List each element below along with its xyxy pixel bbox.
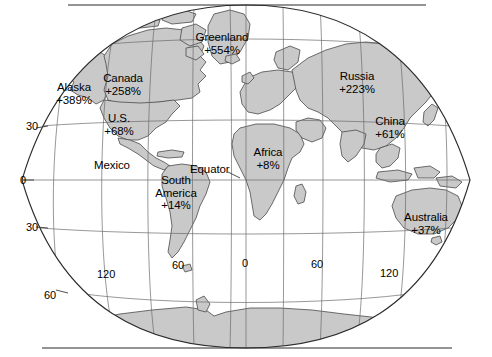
equator-label: Equator [190, 163, 230, 176]
longitude-label-120w-text: 120 [97, 268, 115, 280]
region-name-alaska: Alaska [57, 81, 91, 93]
region-label-greenland: Greenland +554% [196, 31, 249, 56]
region-name-united-states: U.S. [108, 112, 130, 124]
region-label-united-states: U.S. +68% [104, 112, 133, 137]
region-name-south-america-line2: America [155, 187, 196, 200]
latitude-label-0: 0 [20, 174, 26, 186]
latitude-label-30n-text: 30 [26, 120, 38, 132]
land-new-zealand-2 [471, 234, 482, 248]
region-value-australia: +37% [404, 224, 448, 237]
region-label-canada: Canada +258% [103, 72, 143, 97]
region-value-china: +61% [375, 128, 405, 141]
region-name-china: China [375, 115, 405, 127]
land-antarctica [40, 307, 460, 350]
region-label-australia: Australia +37% [404, 211, 448, 236]
longitude-label-60w-text: 60 [172, 259, 184, 271]
world-map-figure: Greenland +554% Canada +258% Alaska +389… [0, 0, 492, 357]
longitude-label-60e: 60 [311, 258, 323, 270]
land-caribbean [157, 150, 184, 158]
longitude-label-0-text: 0 [242, 257, 248, 269]
longitude-label-120e-text: 120 [380, 267, 398, 279]
region-label-mexico: Mexico [94, 159, 130, 172]
region-name-greenland: Greenland [196, 31, 249, 43]
longitude-label-60e-text: 60 [311, 258, 323, 270]
latitude-label-60s-text: 60 [44, 289, 56, 301]
region-name-russia: Russia [340, 70, 375, 82]
latitude-label-60s: 60 [44, 289, 56, 301]
longitude-label-60w: 60 [172, 259, 184, 271]
land-arctic-islands-3 [150, 6, 178, 13]
region-value-south-america: +14% [155, 199, 196, 212]
region-value-united-states: +68% [104, 125, 133, 138]
region-label-alaska: Alaska +389% [56, 81, 92, 106]
region-label-south-america: South America +14% [155, 174, 196, 212]
region-value-alaska: +389% [56, 94, 92, 107]
region-name-africa: Africa [254, 146, 283, 158]
region-label-africa: Africa +8% [254, 146, 283, 171]
region-value-greenland: +554% [196, 44, 249, 57]
longitude-label-0: 0 [242, 257, 248, 269]
land-new-zealand-1 [466, 220, 478, 234]
region-label-russia: Russia +223% [339, 70, 375, 95]
region-value-africa: +8% [254, 159, 283, 172]
latitude-label-30n: 30 [26, 120, 38, 132]
tick-60s [56, 290, 68, 293]
latitude-label-30s: 30 [26, 221, 38, 233]
equator-label-text: Equator [190, 163, 230, 175]
region-value-russia: +223% [339, 83, 375, 96]
region-name-mexico: Mexico [94, 159, 130, 171]
latitude-label-30s-text: 30 [26, 221, 38, 233]
region-label-china: China +61% [375, 115, 405, 140]
longitude-label-120w: 120 [97, 268, 115, 280]
longitude-label-120e: 120 [380, 267, 398, 279]
region-value-canada: +258% [103, 85, 143, 98]
region-name-canada: Canada [103, 72, 143, 84]
latitude-label-0-text: 0 [20, 174, 26, 186]
region-name-south-america-line1: South [161, 174, 191, 186]
region-name-australia: Australia [404, 211, 448, 223]
